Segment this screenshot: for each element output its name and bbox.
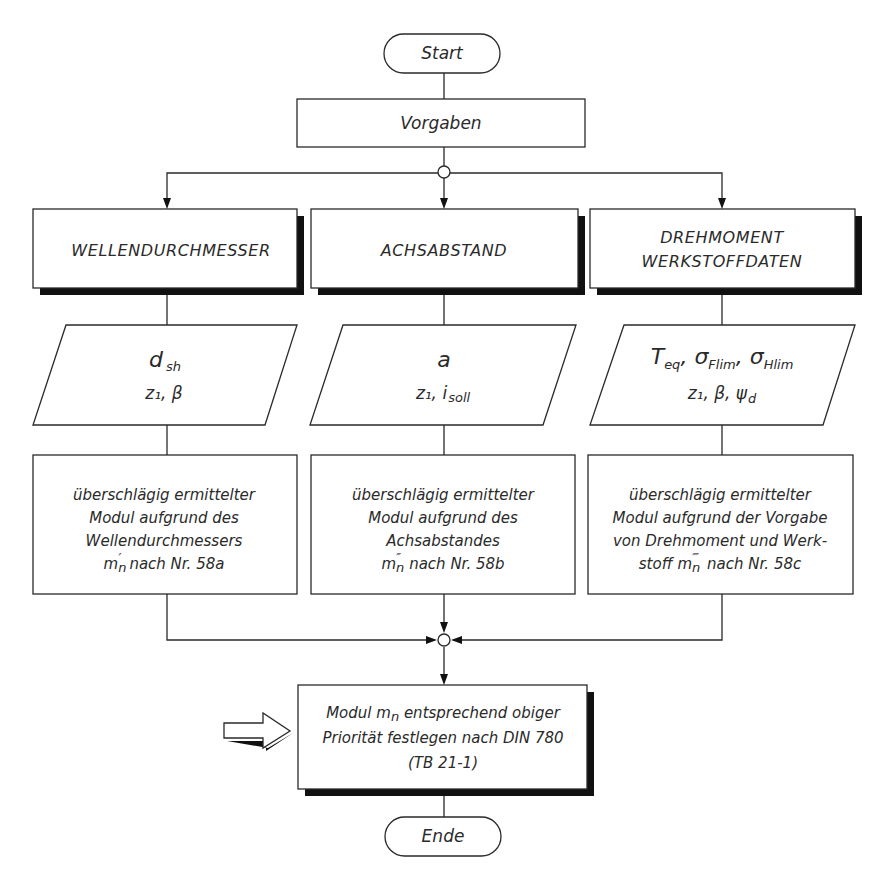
- process-box-1: überschlägig ermittelter Modul aufgrund …: [33, 455, 297, 594]
- process-line: Modul aufgrund der Vorgabe: [613, 509, 828, 527]
- edge-process1-merge: [167, 594, 430, 640]
- process-line: Wellendurchmessers: [86, 532, 243, 550]
- process-line: überschlägig ermittelter: [73, 486, 256, 504]
- end-label: Ende: [422, 826, 465, 846]
- process-line: überschlägig ermittelter: [352, 486, 535, 504]
- heading-box-drehmoment: DREHMOMENT WERKSTOFFDATEN: [590, 209, 862, 295]
- result-box: Modul mn entsprechend obiger Priorität f…: [298, 685, 594, 796]
- end-terminal: Ende: [385, 817, 501, 856]
- vorgaben-label: Vorgaben: [400, 113, 481, 133]
- vorgaben-box: Vorgaben: [297, 99, 585, 147]
- heading-label: WELLENDURCHMESSER: [71, 241, 270, 260]
- arrowhead-right-branch: [718, 198, 726, 209]
- given-data-3: Teq, σFlim, σHlim z₁, β, ψd: [590, 325, 855, 425]
- result-line-3: (TB 21-1): [408, 754, 478, 772]
- merge-junction: [438, 634, 450, 646]
- given-params-1: z₁, β: [144, 383, 183, 403]
- result-line-2: Priorität festlegen nach DIN 780: [322, 729, 563, 747]
- edge-split-left: [167, 173, 438, 200]
- arrowhead-merge-left: [426, 636, 437, 644]
- result-line-1: Modul mn entsprechend obiger: [326, 704, 560, 724]
- process-box-2: überschlägig ermittelter Modul aufgrund …: [311, 455, 575, 594]
- arrowhead-middle-branch: [440, 198, 448, 209]
- arrowhead-merge-top: [440, 622, 448, 633]
- process-line: Modul aufgrund des: [368, 509, 518, 527]
- edge-process3-merge: [460, 594, 722, 640]
- given-params-3: z₁, β, ψd: [687, 383, 757, 406]
- process-box-3: überschlägig ermittelter Modul aufgrund …: [588, 455, 853, 594]
- arrowhead-result: [440, 674, 448, 685]
- process-line: Achsabstandes: [385, 532, 500, 550]
- heading-label-line1: DREHMOMENT: [660, 228, 784, 247]
- given-data-2: a z₁, isoll: [310, 325, 576, 425]
- process-line: von Drehmoment und Werk-: [613, 532, 827, 550]
- edge-split-right: [450, 173, 722, 200]
- split-junction: [438, 166, 450, 178]
- heading-label-line2: WERKSTOFFDATEN: [642, 252, 803, 271]
- heading-label: ACHSABSTAND: [380, 241, 508, 260]
- block-arrow-right-icon: [224, 713, 293, 751]
- arrowhead-merge-right: [451, 636, 462, 644]
- heading-box-achsabstand: ACHSABSTAND: [311, 209, 585, 295]
- given-symbol-2: a: [437, 347, 450, 372]
- heading-box-wellendurchmesser: WELLENDURCHMESSER: [33, 209, 304, 295]
- arrowhead-left-branch: [163, 198, 171, 209]
- start-label: Start: [421, 43, 464, 63]
- process-line: überschlägig ermittelter: [629, 486, 812, 504]
- flowchart: Start Vorgaben WELLENDURCHMESSER ACHSABS…: [0, 0, 885, 878]
- process-line: Modul aufgrund des: [89, 509, 239, 527]
- start-terminal: Start: [384, 34, 500, 73]
- given-data-1: dsh z₁, β: [33, 325, 297, 425]
